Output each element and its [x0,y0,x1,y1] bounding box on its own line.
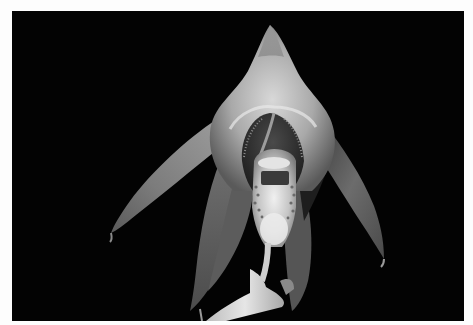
orchid-illustration [12,11,464,321]
image-frame [0,0,473,325]
lip-cavity [261,171,289,185]
orchid-photo [12,11,464,321]
